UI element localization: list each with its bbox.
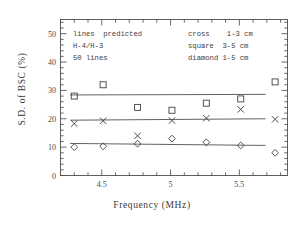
y-tick-label: 10: [48, 143, 56, 152]
data-point: [71, 144, 78, 151]
data-point: [272, 149, 279, 156]
scatter-plot-canvas: 4.555.501020304050: [0, 0, 304, 225]
data-point: [169, 107, 175, 113]
y-tick-label: 40: [48, 58, 56, 67]
data-point: [238, 106, 244, 112]
x-tick-label: 5: [169, 180, 173, 189]
annotation-h4-h3: H-4/H-3: [73, 42, 103, 50]
data-point: [71, 93, 77, 99]
data-point: [272, 79, 278, 85]
series-square: [71, 79, 278, 113]
data-point: [71, 120, 77, 126]
data-point: [272, 116, 278, 122]
data-point: [100, 118, 106, 124]
annotation-50-lines: 50 lines: [73, 54, 108, 62]
y-axis-title: S.D. of BSC (%): [17, 41, 27, 137]
data-point: [203, 115, 209, 121]
data-point: [238, 96, 244, 102]
y-tick-label: 50: [48, 30, 56, 39]
x-tick-label: 4.5: [97, 180, 107, 189]
legend-entry-diamond: diamond 1-5 cm: [188, 54, 248, 62]
data-point: [100, 82, 106, 88]
x-axis-title: Frequency (MHz): [0, 200, 304, 210]
y-tick-label: 20: [48, 115, 56, 124]
x-tick-label: 5.5: [234, 180, 244, 189]
y-tick-label: 0: [52, 172, 56, 181]
legend-entry-square: square 3-5 cm: [188, 42, 248, 50]
legend-entry-cross: cross 1-3 cm: [188, 30, 253, 38]
annotation-lines-predicted: lines predicted: [73, 30, 142, 38]
y-tick-label: 30: [48, 86, 56, 95]
predicted-line-square: [70, 94, 265, 95]
chart-figure: 4.555.501020304050 S.D. of BSC (%) Frequ…: [0, 0, 304, 225]
data-point: [134, 133, 140, 139]
data-point: [169, 117, 175, 123]
predicted-line-diamond: [70, 143, 265, 145]
data-point: [135, 104, 141, 110]
data-point: [169, 135, 176, 142]
predicted-line-cross: [70, 119, 265, 120]
data-point: [203, 100, 209, 106]
